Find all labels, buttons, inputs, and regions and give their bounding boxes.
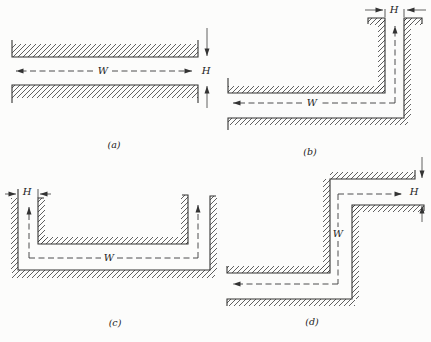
width-label: W	[98, 65, 109, 76]
upper-wall-line	[227, 170, 415, 273]
step-hatch-vertical-leg	[352, 205, 359, 299]
outer-wall-hatch-bottom	[228, 118, 408, 125]
height-dimension: H	[5, 186, 51, 197]
figure-canvas: W H (a) H	[0, 0, 431, 342]
upper-wall-hatch-vertical-leg	[323, 179, 330, 273]
caption-c: (c)	[109, 317, 122, 328]
outer-wall	[228, 18, 422, 130]
inner-wall-line	[228, 18, 385, 93]
height-label: H	[409, 186, 419, 197]
panel-d: H W (d)	[227, 157, 424, 327]
bottom-wall-hatch	[12, 85, 198, 98]
height-dimension: H	[365, 4, 426, 18]
width-label: W	[307, 97, 318, 108]
inner-block	[38, 189, 188, 244]
panel-c: H W (c)	[5, 186, 217, 329]
height-label: H	[389, 4, 399, 15]
flow-centerline: W	[233, 26, 395, 108]
panel-b: H W (b)	[228, 4, 426, 158]
inner-wall-hatch-bottom	[228, 86, 385, 93]
top-wall	[12, 40, 198, 57]
figure-page: W H (a) H	[0, 0, 431, 342]
bottom-wall	[12, 85, 198, 103]
flow-centerline: W	[29, 205, 198, 263]
panel-a: W H (a)	[12, 28, 211, 150]
height-label: H	[22, 186, 32, 197]
height-label: H	[201, 65, 211, 76]
caption-d: (d)	[305, 316, 319, 327]
width-label: W	[333, 228, 344, 239]
inner-wall-hatch-right	[378, 18, 385, 93]
outer-wall-hatch-right	[404, 18, 411, 118]
step-hatch-bottom-leg	[227, 299, 355, 306]
height-dimension: H	[409, 157, 422, 222]
caption-b: (b)	[303, 146, 317, 157]
upper-wall-hatch-bottom-leg	[227, 266, 330, 273]
inner-wall	[228, 18, 385, 93]
outer-wall-line	[228, 18, 422, 130]
caption-a: (a)	[107, 139, 120, 150]
outer-wall-hatch-right	[210, 196, 217, 270]
width-dimension: W	[16, 65, 192, 76]
step-hatch-top-leg	[352, 205, 424, 212]
outer-wall-hatch-left	[11, 198, 18, 270]
height-dimension: H	[201, 28, 211, 108]
upper-left-wall	[227, 170, 415, 273]
outer-wall-hatch-bottom	[12, 270, 215, 278]
inner-block-line	[38, 195, 188, 244]
top-wall-hatch	[12, 44, 198, 57]
width-label: W	[104, 252, 115, 263]
inner-block-hatch-bottom	[38, 237, 188, 244]
inner-block-hatch-right	[181, 195, 188, 244]
upper-wall-hatch-top-leg	[330, 172, 415, 179]
